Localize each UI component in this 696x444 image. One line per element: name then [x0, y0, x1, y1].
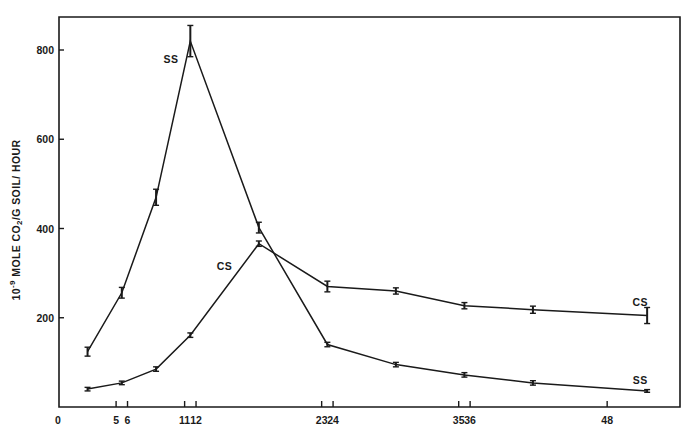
ylabel-subscript: 2	[15, 220, 24, 225]
y-tick-label: 200	[36, 312, 54, 324]
ylabel-prefix: 10	[10, 288, 22, 300]
x-tick-label: 36	[464, 414, 476, 426]
x-tick-label: 35	[453, 414, 465, 426]
x-tick-label: 6	[125, 414, 131, 426]
x-tick-label: 5	[113, 414, 119, 426]
y-tick-label: 800	[36, 44, 54, 56]
series-ss	[85, 25, 651, 392]
series-group	[85, 25, 651, 392]
x-tick-label: 24	[327, 414, 339, 426]
series-line	[88, 244, 648, 389]
x-tick-label: 48	[601, 414, 613, 426]
line-chart: 20040060080005611122324353648 SSCSCSSS	[0, 0, 696, 444]
series-label-cs: CS	[217, 260, 233, 272]
y-axis-label: 10-9 MOLE CO2/G SOIL/ HOUR	[2, 60, 30, 380]
series-label-ss: SS	[163, 53, 178, 65]
series-cs	[85, 241, 651, 391]
axes: 20040060080005611122324353648	[36, 17, 680, 426]
x-tick-label: 23	[316, 414, 328, 426]
y-tick-label: 600	[36, 133, 54, 145]
ylabel-exponent: -9	[8, 280, 17, 288]
y-tick-label: 400	[36, 223, 54, 235]
series-line	[88, 41, 648, 391]
annotations: SSCSCSSS	[163, 53, 648, 386]
x-tick-label: 0	[55, 414, 61, 426]
series-label-cs: CS	[632, 296, 648, 308]
ylabel-suffix: /G SOIL/ HOUR	[10, 140, 22, 220]
ylabel-mid: MOLE CO	[10, 225, 22, 280]
plot-frame	[59, 17, 680, 407]
series-label-ss: SS	[633, 374, 648, 386]
x-tick-label: 11	[179, 414, 190, 426]
x-tick-label: 12	[190, 414, 202, 426]
